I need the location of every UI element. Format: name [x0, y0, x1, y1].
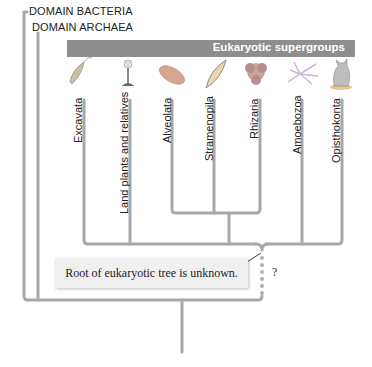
label-stramenopila: Stramenopila: [203, 96, 215, 161]
amoeba-icon: [288, 62, 318, 84]
unknown-root-dots: [260, 256, 264, 295]
annotation-pointer: [247, 253, 261, 262]
cat-icon: [330, 59, 352, 90]
banner-title: Eukaryotic supergroups: [213, 41, 345, 53]
paramecium-icon: [156, 62, 187, 88]
label-land-plants: Land plants and relatives: [118, 92, 130, 214]
domain-bacteria-label: DOMAIN BACTERIA: [29, 5, 133, 17]
label-rhizaria: Rhizaria: [248, 99, 260, 139]
flagellate-icon: [70, 58, 92, 85]
supergroups-banner: Eukaryotic supergroups: [67, 40, 355, 57]
label-amoebozoa: Amoebozoa: [291, 95, 303, 154]
label-opisthokonta: Opisthokonta: [330, 98, 342, 163]
root-annotation-text: Root of eukaryotic tree is unknown.: [55, 266, 248, 281]
branch-alveolata: [172, 100, 260, 213]
diatom-icon: [206, 60, 226, 88]
label-excavata: Excavata: [72, 98, 84, 143]
root-annotation-box: Root of eukaryotic tree is unknown.: [55, 258, 248, 288]
label-alveolata: Alveolata: [161, 98, 173, 143]
foraminifera-icon: [245, 63, 267, 85]
branch-bacteria: [24, 12, 28, 300]
plant-icon: [122, 60, 134, 86]
branch-node: [256, 244, 268, 250]
domain-archaea-label: DOMAIN ARCHAEA: [32, 21, 133, 33]
question-mark: ?: [272, 265, 277, 280]
branch-base-bar: [28, 296, 262, 300]
